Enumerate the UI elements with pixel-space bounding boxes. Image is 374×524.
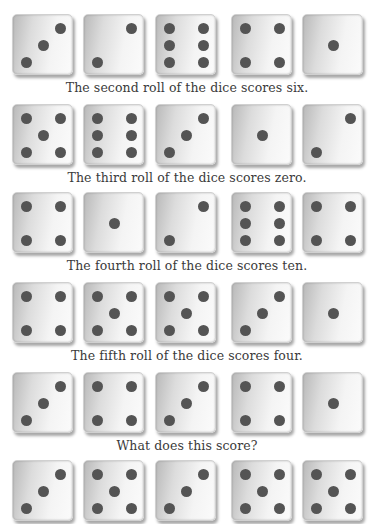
die-face-1 [231, 104, 292, 165]
pip-icon [126, 147, 137, 158]
pip-icon [240, 218, 251, 229]
pip-icon [164, 57, 175, 68]
pip-icon [38, 486, 49, 497]
pip-icon [311, 147, 322, 158]
roll-caption: The fifth roll of the dice scores four. [0, 348, 374, 364]
dice-row [0, 460, 374, 524]
pip-icon [198, 381, 209, 392]
pip-icon [92, 147, 103, 158]
pip-icon [21, 57, 32, 68]
roll-caption: The third roll of the dice scores zero. [0, 170, 374, 186]
pip-icon [181, 308, 192, 319]
pip-icon [126, 503, 137, 514]
pip-icon [164, 325, 175, 336]
die-face-5 [83, 460, 144, 521]
pip-icon [55, 381, 66, 392]
pip-icon [274, 469, 285, 480]
dice-row [0, 104, 374, 168]
die-face-4 [83, 372, 144, 433]
pip-icon [164, 40, 175, 51]
pip-icon [109, 486, 120, 497]
die-face-2 [83, 14, 144, 75]
pip-icon [126, 130, 137, 141]
pip-icon [126, 381, 137, 392]
pip-icon [240, 23, 251, 34]
pip-icon [274, 23, 285, 34]
pip-icon [274, 201, 285, 212]
pip-icon [328, 398, 339, 409]
pip-icon [21, 291, 32, 302]
pip-icon [345, 113, 356, 124]
die-face-5 [12, 104, 73, 165]
die-face-4 [231, 14, 292, 75]
pip-icon [311, 201, 322, 212]
pip-icon [181, 130, 192, 141]
pip-icon [328, 40, 339, 51]
roll-caption: What does this score? [0, 438, 374, 454]
pip-icon [240, 325, 251, 336]
pip-icon [311, 235, 322, 246]
pip-icon [55, 325, 66, 336]
pip-icon [55, 291, 66, 302]
die-face-1 [302, 14, 363, 75]
die-face-6 [155, 14, 216, 75]
die-face-4 [12, 282, 73, 343]
pip-icon [240, 503, 251, 514]
pip-icon [198, 40, 209, 51]
pip-icon [126, 291, 137, 302]
pip-icon [55, 201, 66, 212]
pip-icon [21, 325, 32, 336]
pip-icon [345, 503, 356, 514]
pip-icon [274, 235, 285, 246]
roll-caption: The second roll of the dice scores six. [0, 80, 374, 96]
die-face-6 [83, 104, 144, 165]
pip-icon [345, 469, 356, 480]
pip-icon [109, 218, 120, 229]
pip-icon [198, 57, 209, 68]
die-face-3 [12, 14, 73, 75]
die-face-4 [231, 372, 292, 433]
pip-icon [21, 201, 32, 212]
pip-icon [126, 325, 137, 336]
die-face-2 [302, 104, 363, 165]
pip-icon [311, 503, 322, 514]
pip-icon [240, 235, 251, 246]
pip-icon [92, 325, 103, 336]
pip-icon [257, 486, 268, 497]
die-face-4 [12, 192, 73, 253]
pip-icon [181, 486, 192, 497]
die-face-3 [12, 460, 73, 521]
die-face-3 [155, 460, 216, 521]
pip-icon [198, 469, 209, 480]
pip-icon [92, 57, 103, 68]
pip-icon [126, 415, 137, 426]
pip-icon [92, 503, 103, 514]
die-face-3 [155, 104, 216, 165]
dice-row [0, 14, 374, 78]
die-face-3 [231, 282, 292, 343]
dice-row [0, 192, 374, 256]
pip-icon [164, 503, 175, 514]
pip-icon [92, 381, 103, 392]
die-face-1 [302, 372, 363, 433]
pip-icon [240, 57, 251, 68]
pip-icon [274, 218, 285, 229]
die-face-2 [155, 192, 216, 253]
pip-icon [109, 308, 120, 319]
pip-icon [92, 291, 103, 302]
die-face-5 [302, 460, 363, 521]
die-face-6 [231, 192, 292, 253]
die-face-3 [12, 372, 73, 433]
pip-icon [21, 415, 32, 426]
pip-icon [198, 291, 209, 302]
pip-icon [181, 398, 192, 409]
pip-icon [21, 147, 32, 158]
pip-icon [55, 469, 66, 480]
pip-icon [164, 147, 175, 158]
dice-row [0, 372, 374, 436]
pip-icon [274, 57, 285, 68]
pip-icon [126, 23, 137, 34]
die-face-5 [231, 460, 292, 521]
die-face-1 [302, 282, 363, 343]
die-face-1 [83, 192, 144, 253]
